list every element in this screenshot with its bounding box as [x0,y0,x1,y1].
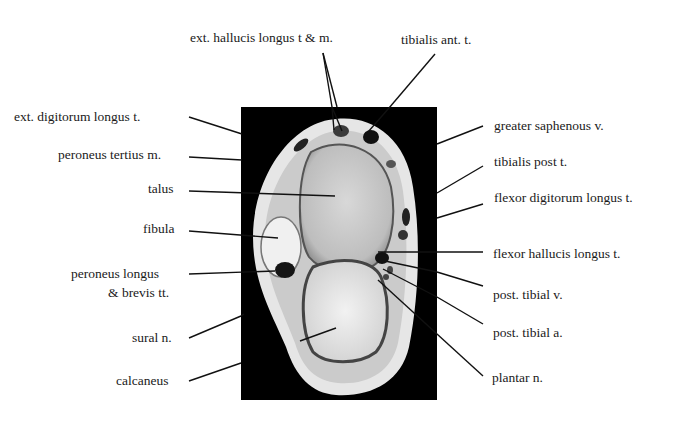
leader-lines [0,0,688,425]
label-ext-digitorum-longus: ext. digitorum longus t. [14,109,140,125]
label-flexor-hallucis-longus: flexor hallucis longus t. [493,246,620,262]
label-talus: talus [148,181,174,197]
label-fibula: fibula [143,221,175,237]
label-flexor-digitorum-longus: flexor digitorum longus t. [494,190,633,206]
label-plantar-nerve: plantar n. [492,370,543,386]
label-tibialis-ant: tibialis ant. t. [401,32,472,48]
label-tibialis-post: tibialis post t. [494,154,567,170]
label-peroneus-longus: peroneus longus [71,266,159,282]
label-post-tibial-artery: post. tibial a. [493,325,563,341]
label-peroneus-brevis: & brevis tt. [108,285,169,301]
label-calcaneus: calcaneus [116,373,168,389]
label-ext-hallucis-longus: ext. hallucis longus t & m. [190,30,333,46]
label-peroneus-tertius: peroneus tertius m. [58,147,161,163]
label-greater-saphenous: greater saphenous v. [494,118,604,134]
label-post-tibial-vein: post. tibial v. [493,287,563,303]
label-sural-nerve: sural n. [132,330,172,346]
